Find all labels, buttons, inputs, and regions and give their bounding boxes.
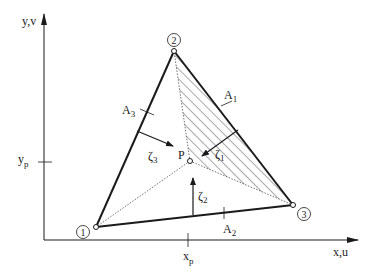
triangle-element-diagram: y,v x,u yp xp A3 A1 A2 ζ3 ζ1 ζ2 P 1 2 bbox=[0, 0, 376, 277]
node-2-label: 2 bbox=[168, 34, 181, 47]
node-3-label: 3 bbox=[298, 208, 311, 221]
svg-text:2: 2 bbox=[172, 35, 177, 46]
point-p-marker bbox=[188, 159, 193, 164]
svg-text:1: 1 bbox=[81, 227, 86, 238]
x-p-label: xp bbox=[183, 249, 194, 266]
x-axis-label: x,u bbox=[333, 245, 348, 259]
node-3-marker bbox=[291, 203, 296, 208]
point-p-label: P bbox=[178, 148, 185, 162]
y-axis-label: y,v bbox=[22, 14, 36, 28]
edge-1-3 bbox=[96, 205, 293, 227]
area-label-a1: A1 bbox=[224, 88, 237, 104]
zeta2-label: ζ2 bbox=[198, 189, 207, 205]
area-label-a3: A3 bbox=[122, 103, 136, 119]
node-1-marker bbox=[94, 225, 99, 230]
zeta3-label: ζ3 bbox=[148, 149, 158, 165]
svg-text:3: 3 bbox=[302, 209, 307, 220]
zeta3-arrow bbox=[137, 131, 173, 146]
edge-1-2 bbox=[96, 51, 174, 227]
node-1-label: 1 bbox=[77, 226, 90, 239]
area-label-a2: A2 bbox=[223, 222, 236, 238]
node-2-marker bbox=[172, 49, 177, 54]
y-p-label: yp bbox=[18, 152, 29, 169]
